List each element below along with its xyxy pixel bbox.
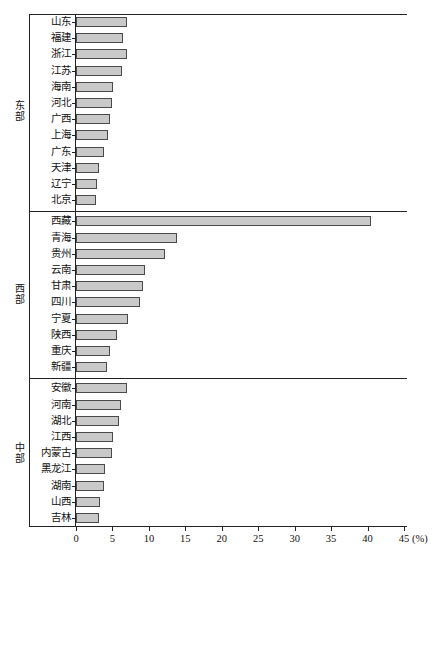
x-axis-tick-label: 30 xyxy=(280,533,310,545)
category-label: 江苏 xyxy=(8,63,74,79)
chart-row: 湖南 xyxy=(0,478,442,494)
category-label: 福建 xyxy=(8,30,74,46)
bar xyxy=(76,281,143,291)
category-label: 山东 xyxy=(8,14,74,30)
x-axis-line xyxy=(29,526,407,527)
chart-row: 新疆 xyxy=(0,359,442,375)
chart-row: 西藏 xyxy=(0,213,442,229)
chart-row: 江西 xyxy=(0,429,442,445)
bar xyxy=(76,464,105,474)
group-separator xyxy=(29,378,407,379)
bar xyxy=(76,130,108,140)
category-label: 山西 xyxy=(8,494,74,510)
chart-row: 重庆 xyxy=(0,343,442,359)
chart-row: 云南 xyxy=(0,262,442,278)
category-label: 北京 xyxy=(8,192,74,208)
chart-row: 贵州 xyxy=(0,246,442,262)
chart-row: 北京 xyxy=(0,192,442,208)
chart-row: 安徽 xyxy=(0,380,442,396)
category-label: 重庆 xyxy=(8,343,74,359)
x-axis-tick-label: 0 xyxy=(61,533,91,545)
chart-row: 黑龙江 xyxy=(0,461,442,477)
chart-row: 山西 xyxy=(0,494,442,510)
plot-area: 山东福建浙江江苏海南河北广西上海广东天津辽宁北京西藏青海贵州云南甘肃四川宁夏陕西… xyxy=(0,0,442,659)
bar xyxy=(76,233,177,243)
x-axis-unit-label: (%) xyxy=(412,533,428,545)
category-label: 辽宁 xyxy=(8,176,74,192)
category-label: 海南 xyxy=(8,79,74,95)
x-axis-tick xyxy=(258,527,259,531)
category-label: 吉林 xyxy=(8,510,74,526)
chart-row: 福建 xyxy=(0,30,442,46)
bar xyxy=(76,416,119,426)
x-axis-tick-label: 35 xyxy=(316,533,346,545)
category-label: 浙江 xyxy=(8,46,74,62)
bar xyxy=(76,98,112,108)
bar xyxy=(76,400,121,410)
bar xyxy=(76,314,128,324)
bar xyxy=(76,179,97,189)
x-axis-tick-label: 5 xyxy=(97,533,127,545)
x-axis-tick-label: 25 xyxy=(243,533,273,545)
chart-row: 甘肃 xyxy=(0,278,442,294)
category-label: 西藏 xyxy=(8,213,74,229)
category-label: 新疆 xyxy=(8,359,74,375)
x-axis-tick xyxy=(149,527,150,531)
bar-chart: 山东福建浙江江苏海南河北广西上海广东天津辽宁北京西藏青海贵州云南甘肃四川宁夏陕西… xyxy=(0,0,442,659)
bar xyxy=(76,49,127,59)
bar xyxy=(76,513,99,523)
y-axis-line xyxy=(75,14,76,526)
bar xyxy=(76,147,104,157)
bar xyxy=(76,362,107,372)
bar xyxy=(76,481,104,491)
bar xyxy=(76,82,113,92)
bar xyxy=(76,383,127,393)
category-label: 云南 xyxy=(8,262,74,278)
chart-row: 辽宁 xyxy=(0,176,442,192)
region-group-label: 中部 xyxy=(12,442,28,464)
x-axis-tick xyxy=(222,527,223,531)
chart-row: 天津 xyxy=(0,160,442,176)
x-axis-tick-label: 20 xyxy=(207,533,237,545)
bar xyxy=(76,448,112,458)
region-group-label: 东部 xyxy=(12,100,28,122)
chart-row: 青海 xyxy=(0,230,442,246)
category-label: 安徽 xyxy=(8,380,74,396)
x-axis-tick xyxy=(112,527,113,531)
category-label: 陕西 xyxy=(8,327,74,343)
x-axis-tick xyxy=(331,527,332,531)
category-label: 湖北 xyxy=(8,413,74,429)
category-label: 天津 xyxy=(8,160,74,176)
bar xyxy=(76,346,110,356)
chart-row: 内蒙古 xyxy=(0,445,442,461)
x-axis-tick xyxy=(76,527,77,531)
chart-row: 上海 xyxy=(0,127,442,143)
x-axis-tick xyxy=(404,527,405,531)
category-label: 广东 xyxy=(8,144,74,160)
bar xyxy=(76,297,140,307)
chart-row: 吉林 xyxy=(0,510,442,526)
chart-row: 广西 xyxy=(0,111,442,127)
bar xyxy=(76,497,100,507)
x-axis-tick-label: 10 xyxy=(134,533,164,545)
category-label: 宁夏 xyxy=(8,311,74,327)
x-axis-tick-label: 40 xyxy=(353,533,383,545)
bar xyxy=(76,195,96,205)
bar xyxy=(76,33,123,43)
x-axis-tick-label: 15 xyxy=(170,533,200,545)
category-label: 青海 xyxy=(8,230,74,246)
chart-row: 浙江 xyxy=(0,46,442,62)
bar xyxy=(76,249,165,259)
bar xyxy=(76,66,122,76)
chart-row: 山东 xyxy=(0,14,442,30)
bar xyxy=(76,265,145,275)
chart-row: 江苏 xyxy=(0,63,442,79)
chart-row: 四川 xyxy=(0,294,442,310)
category-label: 贵州 xyxy=(8,246,74,262)
label-column-border xyxy=(29,14,30,526)
bar xyxy=(76,17,127,27)
chart-row: 宁夏 xyxy=(0,311,442,327)
chart-row: 陕西 xyxy=(0,327,442,343)
bar xyxy=(76,114,110,124)
bar xyxy=(76,432,113,442)
